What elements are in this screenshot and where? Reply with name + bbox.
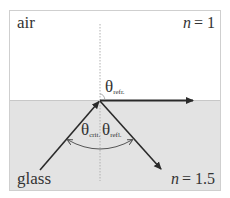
n-symbol: n — [183, 14, 191, 31]
glass-label: glass — [17, 169, 51, 188]
subscript: crit. — [89, 131, 100, 139]
subscript: refl. — [110, 131, 122, 139]
theta-symbol: θ — [102, 120, 110, 139]
theta-symbol: θ — [81, 120, 89, 139]
glass-index-label: n= 1.5 — [171, 170, 215, 187]
n-symbol: n — [171, 170, 179, 187]
subscript: refr. — [113, 88, 125, 96]
air-index-label: n= 1 — [183, 14, 215, 31]
refraction-diagram: air n= 1 θrefr. θcrit. θrefl. glass n= 1… — [0, 0, 230, 198]
n-value: = 1 — [194, 14, 215, 31]
air-label: air — [17, 13, 35, 32]
theta-symbol: θ — [105, 77, 113, 96]
n-value: = 1.5 — [182, 170, 215, 187]
